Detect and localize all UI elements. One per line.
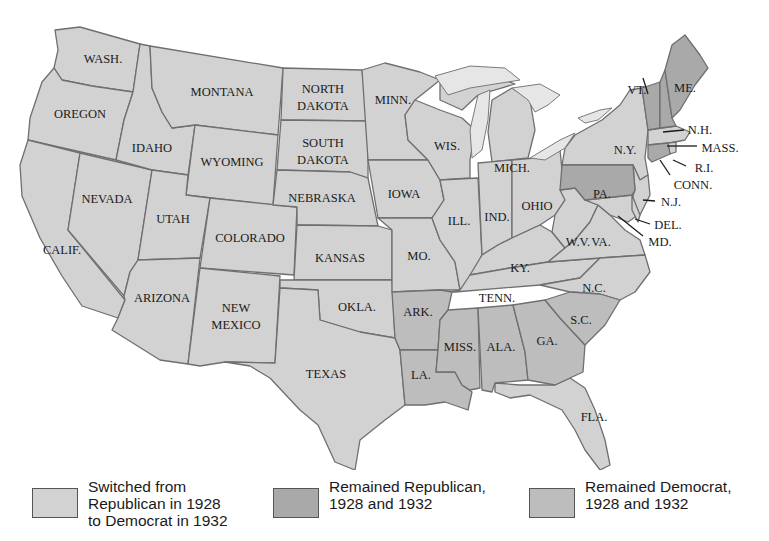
label-del: DEL. xyxy=(654,218,681,232)
label-vt-pos: VT. xyxy=(628,83,647,97)
label-utah: UTAH xyxy=(156,212,190,226)
label-nj: N.J. xyxy=(661,195,681,209)
label-north-dakota-2: DAKOTA xyxy=(297,99,349,113)
label-nh: N.H. xyxy=(688,123,712,137)
label-mass: MASS. xyxy=(701,141,738,155)
label-arizona: ARIZONA xyxy=(134,291,190,305)
us-election-map-1928-1932: WASH. OREGON IDAHO MONTANA WYOMING NEVAD… xyxy=(0,0,769,470)
label-nevada: NEVADA xyxy=(81,192,132,206)
label-sc: S.C. xyxy=(570,313,592,327)
state-new-mexico xyxy=(188,268,280,366)
label-idaho: IDAHO xyxy=(132,141,172,155)
legend-item-remained-democrat: Remained Democrat, 1928 and 1932 xyxy=(529,478,731,518)
label-iowa: IOWA xyxy=(388,187,421,201)
legend-label-remained-democrat: Remained Democrat, 1928 and 1932 xyxy=(585,478,731,512)
label-south-dakota-2: DAKOTA xyxy=(297,153,349,167)
label-north-dakota-1: NORTH xyxy=(302,82,344,96)
label-md: MD. xyxy=(648,235,671,249)
label-ill: ILL. xyxy=(448,214,471,228)
label-ny: N.Y. xyxy=(614,143,637,157)
label-ind: IND. xyxy=(484,210,509,224)
label-wyoming: WYOMING xyxy=(200,155,263,169)
state-maine xyxy=(665,35,708,118)
label-la: LA. xyxy=(411,368,431,382)
legend-swatch-remained-democrat xyxy=(529,488,575,518)
label-montana: MONTANA xyxy=(191,85,254,99)
label-oregon: OREGON xyxy=(54,107,106,121)
label-ala: ALA. xyxy=(487,340,516,354)
label-miss: MISS. xyxy=(444,340,476,354)
label-ark: ARK. xyxy=(403,305,433,319)
label-mich: MICH. xyxy=(494,161,530,175)
label-ohio: OHIO xyxy=(521,199,552,213)
legend-swatch-remained-republican xyxy=(273,488,319,518)
label-kansas: KANSAS xyxy=(315,251,365,265)
label-ky: KY. xyxy=(510,261,530,275)
label-ga: GA. xyxy=(536,334,557,348)
legend-item-remained-republican: Remained Republican, 1928 and 1932 xyxy=(273,478,486,518)
legend-label-switched: Switched from Republican in 1928 to Demo… xyxy=(88,478,228,529)
label-nebraska: NEBRASKA xyxy=(288,191,355,205)
label-mo: MO. xyxy=(407,249,430,263)
label-wis: WIS. xyxy=(434,139,460,153)
label-nc: N.C. xyxy=(582,281,606,295)
label-okla: OKLA. xyxy=(338,300,376,314)
map-legend: Switched from Republican in 1928 to Demo… xyxy=(0,478,769,538)
label-me: ME. xyxy=(674,81,696,95)
label-ri: R.I. xyxy=(695,161,714,175)
label-wash: WASH. xyxy=(84,52,123,66)
label-colorado: COLORADO xyxy=(215,231,284,245)
label-new-mexico-1: NEW xyxy=(222,301,251,315)
label-minn: MINN. xyxy=(375,93,411,107)
state-florida xyxy=(495,378,610,470)
label-wv: W.V. xyxy=(566,235,590,249)
label-va: VA. xyxy=(591,235,611,249)
state-connecticut xyxy=(648,143,670,162)
legend-label-remained-republican: Remained Republican, 1928 and 1932 xyxy=(329,478,486,512)
label-pa: PA. xyxy=(593,187,611,201)
label-new-mexico-2: MEXICO xyxy=(211,318,260,332)
label-calif: CALIF. xyxy=(43,243,81,257)
legend-item-switched: Switched from Republican in 1928 to Demo… xyxy=(32,478,228,529)
label-fla: FLA. xyxy=(581,410,608,424)
label-south-dakota-1: SOUTH xyxy=(302,136,344,150)
label-texas: TEXAS xyxy=(306,367,346,381)
label-tenn: TENN. xyxy=(479,291,515,305)
legend-swatch-switched xyxy=(32,488,78,518)
label-conn: CONN. xyxy=(674,178,713,192)
